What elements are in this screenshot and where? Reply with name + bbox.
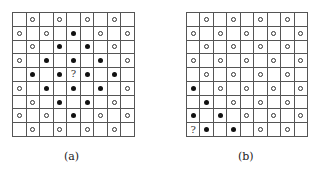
grid-cell [121,96,135,110]
grid-cell [187,54,200,68]
grid-cell [121,68,135,82]
grid-cell [254,109,267,123]
grid-cell [108,68,122,82]
grid-cell [40,82,54,96]
grid-cell [214,41,227,55]
grid-cell [254,41,267,55]
grid-cell [241,54,254,68]
grid-cell [27,82,41,96]
grid-cell [268,123,281,137]
open-circle-icon [298,86,303,91]
grid-cell [268,13,281,27]
grid-cell [187,109,200,123]
filled-circle-icon [231,127,236,132]
open-circle-icon [17,58,22,63]
grid-cell [254,13,267,27]
grid-cell [281,123,294,137]
open-circle-icon [285,44,290,49]
filled-circle-icon [57,72,62,77]
grid-cell [94,41,108,55]
open-circle-icon [258,44,263,49]
grid-cell [187,68,200,82]
grid-cell [54,109,68,123]
filled-circle-icon [57,44,62,49]
open-circle-icon [30,100,35,105]
open-circle-icon [244,58,249,63]
grid-cell [121,123,135,137]
grid-cell [27,109,41,123]
grid-cell [40,96,54,110]
open-circle-icon [85,17,90,22]
filled-circle-icon [44,58,49,63]
open-circle-icon [231,17,236,22]
open-circle-icon [285,100,290,105]
grid-cell [254,96,267,110]
filled-circle-icon [98,58,103,63]
grid-cell [13,123,27,137]
grid-cell [295,41,308,55]
grid-cell [108,82,122,96]
grid-cell [13,96,27,110]
grid-cell [81,13,95,27]
open-circle-icon [258,17,263,22]
open-circle-icon [204,44,209,49]
grid-cell [94,82,108,96]
grid-cell [200,82,213,96]
grid-cell [241,68,254,82]
grid-cell [254,68,267,82]
grid-cell [40,109,54,123]
grid-cell [295,109,308,123]
grid-cell [54,27,68,41]
open-circle-icon [231,44,236,49]
grid-cell [121,13,135,27]
grid-cell [200,68,213,82]
grid-cell [40,41,54,55]
grid-cell [268,82,281,96]
grid-cell [227,82,240,96]
open-circle-icon [112,100,117,105]
open-circle-icon [258,72,263,77]
grid-cell [40,27,54,41]
open-circle-icon [271,113,276,118]
grid-cell [121,54,135,68]
grid-cell [295,123,308,137]
open-circle-icon [244,113,249,118]
grid-cell [214,96,227,110]
open-circle-icon [285,17,290,22]
grid-cell [81,109,95,123]
grid-cell [54,54,68,68]
grid-cell [67,96,81,110]
open-circle-icon [271,86,276,91]
grid-cell [254,82,267,96]
grid-cell [13,109,27,123]
grid-cell [40,123,54,137]
grid-cell [40,68,54,82]
grid-cell [13,82,27,96]
open-circle-icon [85,127,90,132]
open-circle-icon [44,113,49,118]
filled-circle-icon [71,31,76,36]
grid-cell [27,41,41,55]
grid-cell [81,82,95,96]
grid-cell [200,27,213,41]
grid-cell [227,13,240,27]
open-circle-icon [258,127,263,132]
grid-cell [67,123,81,137]
grid-cell [281,41,294,55]
grid-cell [81,68,95,82]
grid-cell [187,41,200,55]
caption-a: (a) [64,150,79,163]
grid-cell [187,82,200,96]
open-circle-icon [218,86,223,91]
grid-cell [281,109,294,123]
grid-cell [54,68,68,82]
grid-cell [295,13,308,27]
grid-cell [108,109,122,123]
grid-cell [94,68,108,82]
open-circle-icon [298,31,303,36]
grid-cell [67,54,81,68]
grid-cell [27,13,41,27]
grid-cell [67,82,81,96]
filled-circle-icon [98,86,103,91]
grid-cell [268,96,281,110]
